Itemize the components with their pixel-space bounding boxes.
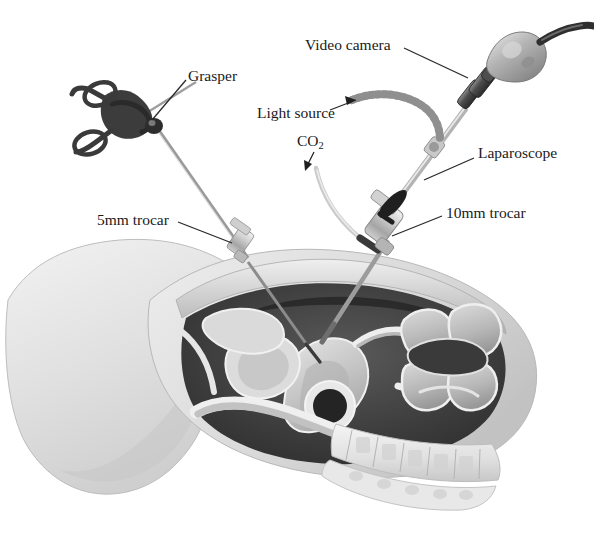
label-co2-text: CO xyxy=(297,132,319,149)
label-video-camera: Video camera xyxy=(305,37,391,53)
video-camera-head xyxy=(487,32,547,82)
leader-laparoscope xyxy=(424,158,474,180)
label-grasper: Grasper xyxy=(188,68,237,84)
co2-tube-highlight xyxy=(317,170,358,236)
leader-grasper xyxy=(152,80,186,120)
patient-body xyxy=(6,239,537,510)
light-source-cable-ribs xyxy=(352,94,440,140)
grasper-hub xyxy=(145,118,163,134)
label-10mm-trocar: 10mm trocar xyxy=(446,205,526,221)
label-5mm-trocar: 5mm trocar xyxy=(97,212,169,228)
arrow-co2 xyxy=(304,160,312,171)
label-co2: CO2 xyxy=(297,133,324,149)
grasper-hub-highlight xyxy=(149,120,156,126)
label-co2-subscript: 2 xyxy=(319,140,324,151)
bowel-loops xyxy=(401,304,501,410)
label-laparoscope: Laparoscope xyxy=(478,145,557,161)
label-light-source: Light source xyxy=(257,105,335,121)
co2-tube xyxy=(316,168,380,250)
laparoscopic-surgery-figure: Video camera Grasper Light source CO2 La… xyxy=(0,0,594,533)
light-source-cable xyxy=(352,94,440,140)
illustration-canvas xyxy=(0,0,594,533)
leader-video-camera xyxy=(404,48,468,78)
